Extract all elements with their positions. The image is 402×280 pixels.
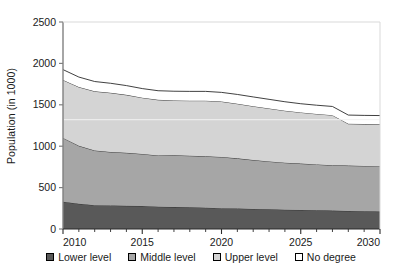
legend-item-label: No degree <box>307 252 356 263</box>
legend-item-lower-level[interactable]: Lower level <box>46 252 111 263</box>
legend-item-middle-level[interactable]: Middle level <box>128 252 195 263</box>
legend-item-label: Upper level <box>225 252 278 263</box>
x-tick-label: 2025 <box>289 236 313 248</box>
legend-swatch-icon <box>128 253 136 261</box>
legend-item-no-degree[interactable]: No degree <box>295 252 356 263</box>
legend-swatch-icon <box>46 253 54 261</box>
legend-item-label: Lower level <box>58 252 111 263</box>
y-tick-label: 1000 <box>33 140 57 152</box>
x-tick-label: 2015 <box>131 236 155 248</box>
y-tick-label: 1500 <box>33 98 57 110</box>
y-tick-label: 500 <box>38 181 56 193</box>
x-tick-label: 2030 <box>357 236 381 248</box>
legend-swatch-icon <box>295 253 303 261</box>
chart-legend: Lower levelMiddle levelUpper levelNo deg… <box>0 252 402 263</box>
legend-item-upper-level[interactable]: Upper level <box>213 252 278 263</box>
x-tick-label: 2010 <box>63 236 87 248</box>
plot-area: 0500100015002000250020102015202020252030 <box>0 0 402 280</box>
legend-item-label: Middle level <box>140 252 195 263</box>
y-tick-label: 2500 <box>33 16 57 28</box>
legend-swatch-icon <box>213 253 221 261</box>
stacked-area-chart: Population (in 1000) 0500100015002000250… <box>0 0 402 280</box>
y-tick-label: 2000 <box>33 57 57 69</box>
y-tick-label: 0 <box>50 223 56 235</box>
x-tick-label: 2020 <box>210 236 234 248</box>
